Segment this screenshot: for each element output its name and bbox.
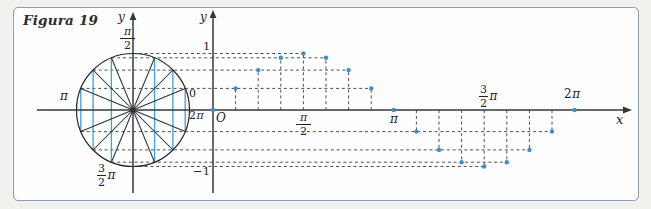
right-y-axis-arrowhead (210, 10, 217, 18)
x-tick-three-half-pi: 3 2 π (479, 84, 497, 109)
x-tick-three-half-num: 3 (480, 84, 487, 95)
x-tick-half-pi-den: 2 (300, 126, 307, 137)
angle-label-half-pi: π 2 (120, 26, 135, 51)
x-tick-pi: π (390, 113, 398, 125)
data-point (505, 160, 509, 164)
angle-label-two-pi: 2 π (189, 110, 204, 122)
right-y-axis-label: y (200, 11, 207, 23)
x-axis-arrowhead (623, 107, 632, 114)
data-point (279, 56, 283, 60)
two-pi-symbol: π (197, 110, 204, 122)
data-point (233, 86, 237, 90)
three-half-fraction: 3 2 (97, 163, 106, 188)
left-y-axis-label: y (118, 11, 125, 23)
x-tick-three-half-den: 2 (480, 98, 487, 109)
three-half-pi-suffix: π (108, 169, 116, 181)
data-point (459, 160, 463, 164)
angle-label-zero: 0 (189, 88, 196, 100)
x-axis-label: x (616, 114, 623, 126)
angle-label-three-half-pi: 3 2 π (97, 163, 115, 188)
x-tick-half-pi-num: π (300, 112, 307, 123)
data-point (256, 68, 260, 72)
left-y-axis-arrowhead (130, 12, 137, 20)
data-point (369, 86, 373, 90)
data-point (324, 56, 328, 60)
three-half-den: 2 (98, 177, 105, 188)
x-tick-three-half-fraction: 3 2 (479, 84, 488, 109)
angle-label-half-pi-num: π (124, 26, 131, 37)
angle-label-half-pi-den: 2 (124, 40, 131, 51)
data-point (211, 108, 215, 112)
data-point (301, 51, 305, 55)
two-pi-coef: 2 (189, 110, 196, 122)
angle-label-pi: π (60, 90, 68, 102)
data-point (414, 129, 418, 133)
three-half-num: 3 (98, 163, 105, 174)
data-point (527, 148, 531, 152)
data-point (572, 108, 576, 112)
figure-title: Figura 19 (23, 12, 98, 28)
x-tick-two-pi-coef: 2 (564, 88, 572, 100)
x-tick-two-pi: 2 π (564, 88, 580, 100)
y-tick-minus-one: −1 (193, 165, 210, 177)
data-point (346, 68, 350, 72)
y-tick-one: 1 (203, 40, 210, 52)
x-tick-half-pi: π 2 (296, 112, 311, 137)
data-point (550, 129, 554, 133)
origin-label: O (216, 112, 226, 124)
data-point (437, 148, 441, 152)
x-tick-two-pi-symbol: π (572, 88, 580, 100)
x-tick-three-half-pi-suffix: π (490, 90, 498, 102)
data-point (482, 164, 486, 168)
